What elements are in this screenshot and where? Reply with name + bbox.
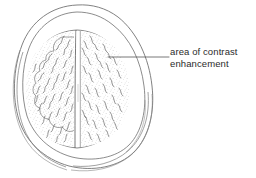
annotation-line-2: enhancement	[170, 58, 256, 70]
annotation-line-1: area of contrast	[170, 46, 256, 58]
brain-illustration-figure: area of contrast enhancement	[0, 0, 256, 178]
brain-axial-diagram	[0, 0, 256, 178]
annotation-contrast-enhancement: area of contrast enhancement	[170, 46, 256, 69]
